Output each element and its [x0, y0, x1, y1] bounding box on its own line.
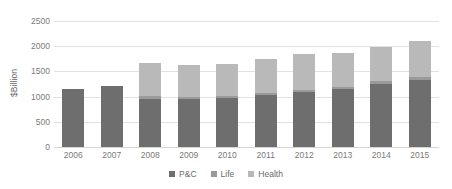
y-axis-title: $Billion: [9, 53, 19, 113]
y-axis-tick-label: 1500: [6, 67, 50, 76]
bar-segment-pc[interactable]: [178, 99, 200, 147]
legend-item-label: P&C: [179, 169, 196, 179]
x-axis-tick-label: 2010: [218, 150, 237, 160]
bar-segment-health[interactable]: [255, 59, 277, 92]
x-axis-tick-label: 2015: [410, 150, 429, 160]
bar-segment-health[interactable]: [370, 47, 392, 81]
bar-series-container: [54, 21, 439, 147]
x-axis: 2006200720082009201020112012201320142015: [54, 150, 439, 166]
bar-segment-health[interactable]: [293, 54, 315, 89]
bar-segment-pc[interactable]: [255, 95, 277, 147]
bar-segment-pc[interactable]: [139, 99, 161, 147]
x-axis-tick-label: 2011: [257, 150, 275, 160]
bar-segment-health[interactable]: [216, 64, 238, 95]
x-axis-tick-label: 2014: [372, 150, 391, 160]
plot-area: [54, 21, 439, 147]
x-axis-tick-label: 2008: [141, 150, 160, 160]
x-axis-tick-label: 2013: [333, 150, 352, 160]
bar-group[interactable]: [178, 65, 200, 147]
bar-group[interactable]: [370, 47, 392, 147]
legend-item-label: Health: [258, 169, 283, 179]
bar-group[interactable]: [255, 59, 277, 147]
bar-segment-health[interactable]: [178, 65, 200, 96]
legend-item-label: Life: [221, 169, 235, 179]
bar-segment-pc[interactable]: [409, 80, 431, 147]
chart-legend: P&CLifeHealth: [0, 169, 452, 179]
gridline: [54, 147, 439, 148]
legend-swatch-icon: [169, 171, 175, 177]
bar-segment-pc[interactable]: [332, 89, 354, 147]
bar-group[interactable]: [101, 86, 123, 147]
legend-item[interactable]: Health: [248, 169, 283, 179]
y-axis-tick-label: 1000: [6, 92, 50, 101]
bar-segment-pc[interactable]: [101, 86, 123, 147]
x-axis-tick-label: 2007: [102, 150, 121, 160]
y-axis-tick-label: 500: [6, 118, 50, 127]
bar-group[interactable]: [293, 54, 315, 147]
y-axis-tick-label: 0: [6, 143, 50, 152]
x-axis-tick-label: 2009: [179, 150, 198, 160]
bar-segment-health[interactable]: [139, 63, 161, 96]
y-axis-tick-label: 2500: [6, 17, 50, 26]
bar-group[interactable]: [216, 64, 238, 147]
y-axis: $Billion 05001000150020002500: [0, 0, 50, 189]
bar-segment-pc[interactable]: [370, 84, 392, 147]
x-axis-tick-label: 2006: [64, 150, 83, 160]
stacked-bar-chart: $Billion 05001000150020002500 2006200720…: [0, 0, 452, 189]
legend-item[interactable]: P&C: [169, 169, 196, 179]
bar-group[interactable]: [139, 63, 161, 147]
legend-item[interactable]: Life: [211, 169, 235, 179]
bar-segment-pc[interactable]: [216, 98, 238, 147]
bar-group[interactable]: [332, 53, 354, 147]
bar-segment-health[interactable]: [409, 41, 431, 78]
legend-swatch-icon: [211, 171, 217, 177]
bar-segment-pc[interactable]: [293, 92, 315, 147]
bar-segment-health[interactable]: [332, 53, 354, 86]
bar-group[interactable]: [409, 41, 431, 147]
x-axis-tick-label: 2012: [295, 150, 314, 160]
y-axis-tick-label: 2000: [6, 42, 50, 51]
bar-segment-pc[interactable]: [62, 89, 84, 147]
bar-group[interactable]: [62, 89, 84, 147]
legend-swatch-icon: [248, 171, 254, 177]
